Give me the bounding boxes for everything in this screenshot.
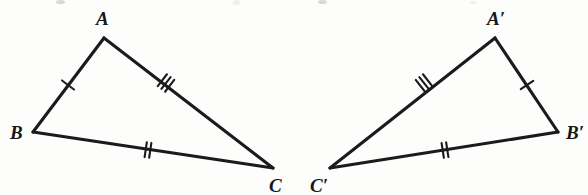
congruent-triangles-figure: ABCA′B′C′ bbox=[0, 0, 588, 195]
congruence-tick bbox=[442, 143, 444, 158]
triangle-side-BprimeCprime bbox=[330, 132, 558, 168]
vertex-label-B: B bbox=[9, 122, 23, 143]
scan-artifact-group bbox=[56, 0, 476, 5]
triangles-canvas: ABCA′B′C′ bbox=[0, 0, 588, 195]
scan-artifact bbox=[470, 1, 476, 4]
scan-artifact bbox=[233, 0, 240, 5]
congruence-tick bbox=[149, 143, 151, 158]
triangle-side-AC bbox=[104, 38, 273, 168]
vertex-labels-group: ABCA′B′C′ bbox=[9, 8, 584, 195]
vertex-label-A: A bbox=[95, 8, 109, 29]
vertex-label-Bprime: B′ bbox=[565, 122, 584, 143]
triangle-a-prime-b-prime-c-prime bbox=[330, 38, 558, 168]
vertex-label-Aprime: A′ bbox=[486, 8, 505, 29]
triangle-side-BC bbox=[33, 132, 273, 168]
vertex-label-C: C bbox=[269, 175, 282, 195]
congruence-tick bbox=[446, 142, 448, 157]
scan-artifact bbox=[56, 0, 65, 4]
congruence-tick bbox=[145, 142, 147, 157]
triangle-abc bbox=[33, 38, 273, 168]
vertex-label-Cprime: C′ bbox=[310, 175, 328, 195]
scan-artifact bbox=[318, 0, 327, 4]
triangles-group bbox=[33, 38, 558, 168]
triangle-side-AprimeCprime bbox=[330, 38, 495, 168]
